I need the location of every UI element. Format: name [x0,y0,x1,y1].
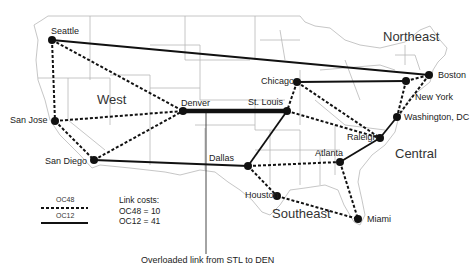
overloaded-link-caption: Overloaded link from STL to DEN [141,256,274,265]
legend-oc48-dashed-line [40,206,92,210]
node-label-houston: Houston [245,191,279,200]
legend-oc12-label: OC12 [56,212,74,219]
node-dallas [244,162,252,170]
node-new-york [402,77,410,85]
node-washington-dc [393,113,401,121]
legend-oc48-label: OC48 [56,196,74,203]
link-costs-title: Link costs: [119,195,160,206]
link-dallas-to-atlanta [248,162,340,166]
node-label-washington-dc: Washington, DC [404,113,469,122]
node-label-seattle: Seattle [51,27,79,36]
link-chicago-to-new-york [297,81,406,82]
link-seattle-to-boston [52,40,429,75]
node-label-dallas: Dallas [209,154,234,163]
node-label-chicago: Chicago [261,77,294,86]
link-seattle-to-san-jose [52,40,55,121]
link-san-jose-to-denver [55,111,183,121]
region-label-west: West [97,93,126,106]
node-san-diego [90,156,98,164]
link-st-louis-to-dallas [248,111,287,166]
node-boston [425,71,433,79]
link-cost-oc12: OC12 = 41 [119,216,160,227]
region-label-southeast: Southeast [272,207,331,220]
node-label-boston: Boston [438,71,466,80]
node-miami [354,215,362,223]
node-label-san-diego: San Diego [45,157,87,166]
link-cost-oc48: OC48 = 10 [119,206,160,217]
legend-oc12-solid-line [40,221,92,225]
node-label-new-york: New York [415,93,453,102]
link-raleigh-to-washington-dc [380,117,397,138]
legend: OC48 OC12 [40,196,92,236]
node-seattle [48,36,56,44]
node-san-jose [51,117,59,125]
node-label-san-jose: San Jose [10,116,48,125]
region-label-central: Central [395,147,437,160]
link-costs: Link costs: OC48 = 10 OC12 = 41 [119,195,160,227]
node-label-st-louis: St. Louis [248,98,283,107]
link-chicago-to-raleigh [297,82,380,138]
region-label-northeast: Northeast [383,30,439,43]
node-label-atlanta: Atlanta [315,149,343,158]
node-atlanta [336,158,344,166]
link-san-diego-to-denver [94,111,183,160]
node-st-louis [283,107,291,115]
network-diagram: SeattleSan JoseSan DiegoDenverSt. LouisC… [0,0,475,270]
link-atlanta-to-miami [340,162,358,219]
link-chicago-to-st-louis [287,82,297,111]
link-san-jose-to-san-diego [55,121,94,160]
node-denver [179,107,187,115]
node-label-miami: Miami [367,215,391,224]
node-chicago [293,78,301,86]
node-label-raleigh: Raleigh [347,133,378,142]
node-label-denver: Denver [181,99,210,108]
